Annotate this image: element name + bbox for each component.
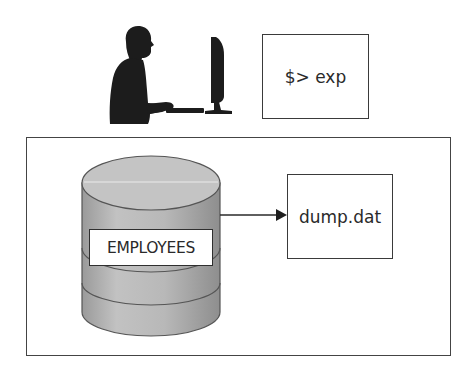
dump-file-box: dump.dat xyxy=(287,174,393,259)
terminal-command-box: $> exp xyxy=(262,34,369,119)
person-head xyxy=(126,26,154,62)
dump-file-name: dump.dat xyxy=(299,207,381,227)
table-label-box: EMPLOYEES xyxy=(89,229,213,266)
person-torso xyxy=(110,58,170,124)
user-at-computer-icon xyxy=(110,26,232,124)
monitor-stand xyxy=(205,102,232,114)
table-label-text: EMPLOYEES xyxy=(107,239,195,257)
terminal-command-text: $> exp xyxy=(285,67,346,87)
keyboard-icon xyxy=(166,108,204,113)
monitor-icon xyxy=(211,37,224,103)
